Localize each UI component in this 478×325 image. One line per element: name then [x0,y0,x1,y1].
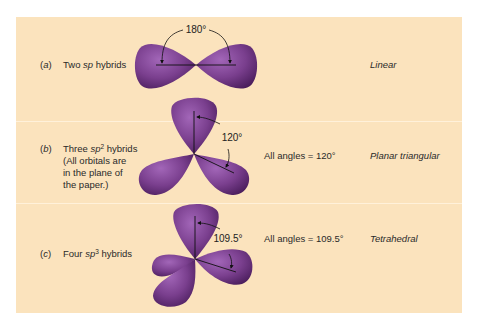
sp-orbital-icon [135,30,257,89]
sp3-angle-label: 109.5° [213,233,242,244]
sp-angle-label: 180° [186,24,207,35]
sp2-orbital-icon [139,98,249,195]
sp3-orbital-icon [152,204,253,307]
sp2-angle-label: 120° [222,132,243,143]
orbital-figures: 180° 120° 109.5° [0,0,478,325]
